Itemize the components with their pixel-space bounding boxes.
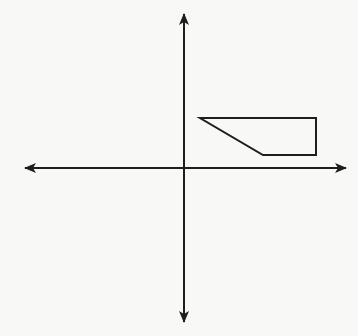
diagram-canvas [0,0,358,336]
trapezoid-shape [200,118,316,155]
coordinate-plane [0,0,358,336]
